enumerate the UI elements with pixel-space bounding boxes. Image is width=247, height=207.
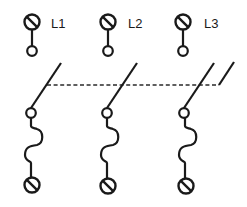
- lower-contact: [102, 108, 112, 118]
- lower-contact: [179, 108, 189, 118]
- upper-contact: [178, 46, 188, 56]
- upper-contact: [27, 46, 37, 56]
- pole-l3: L3: [176, 15, 219, 194]
- pole-label: L1: [51, 16, 65, 31]
- terminal-screw-icon: [25, 178, 40, 193]
- upper-contact: [103, 46, 113, 56]
- switch-blade: [107, 63, 137, 108]
- lower-contact: [26, 108, 36, 118]
- terminal-screw-icon: [176, 15, 191, 30]
- fuse-icon: [101, 118, 118, 178]
- terminal-screw-icon: [101, 179, 116, 194]
- pole-label: L2: [128, 16, 142, 31]
- pole-l2: L2: [101, 15, 143, 194]
- pole-label: L3: [204, 16, 218, 31]
- terminal-screw-icon: [179, 179, 194, 194]
- fuse-icon: [179, 118, 196, 178]
- fuse-icon: [25, 118, 42, 177]
- terminal-screw-icon: [101, 15, 116, 30]
- terminal-screw-icon: [25, 15, 40, 30]
- linkage-end-stroke: [219, 62, 234, 85]
- pole-l1: L1: [25, 15, 66, 193]
- switch-fuse-diagram: L1 L2 L3: [0, 0, 247, 207]
